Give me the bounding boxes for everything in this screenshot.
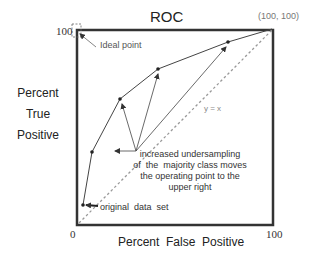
y-axis-max-tick: 100 (56, 25, 73, 37)
corner-label: (100, 100) (258, 11, 299, 21)
x-axis-label: Percent False Positive (118, 235, 244, 249)
origin-tick: 0 (70, 228, 76, 240)
y-axis-label: Percent True Positive (8, 83, 68, 146)
y-axis-label-line: Percent (8, 83, 68, 104)
note-line: upper right (120, 182, 260, 193)
diagonal-label: y = x (204, 104, 221, 113)
ideal-point-label: Ideal point (100, 40, 142, 50)
note-line: of the majority class moves (120, 160, 260, 171)
y-axis-label-line: Positive (8, 125, 68, 146)
undersampling-arrows (115, 47, 226, 151)
undersampling-note: increased undersampling of the majority … (120, 149, 260, 193)
original-data-label: original data set (100, 202, 169, 212)
note-line: increased undersampling (120, 149, 260, 160)
ideal-point-pointer (80, 34, 96, 47)
original-pointer (86, 205, 98, 206)
x-axis-max-tick: 100 (266, 228, 283, 240)
y-axis-label-line: True (8, 104, 68, 125)
chart-title: ROC (150, 8, 183, 25)
diagonal-line (79, 30, 272, 223)
note-line: the operating point to the (120, 171, 260, 182)
